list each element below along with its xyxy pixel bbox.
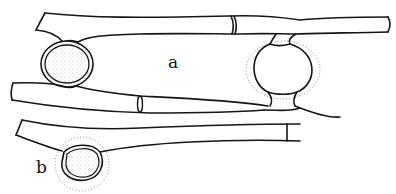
hypha-bottom <box>11 83 340 117</box>
spore-a-left <box>41 41 93 88</box>
figure-canvas: a b <box>0 0 396 194</box>
hypha-b <box>16 120 300 152</box>
hypha-top <box>36 13 390 42</box>
label-a: a <box>168 52 178 72</box>
hyphae-drawing <box>0 0 396 194</box>
spore-a-right <box>246 34 320 106</box>
spore-b <box>55 137 109 191</box>
label-b: b <box>36 157 47 177</box>
